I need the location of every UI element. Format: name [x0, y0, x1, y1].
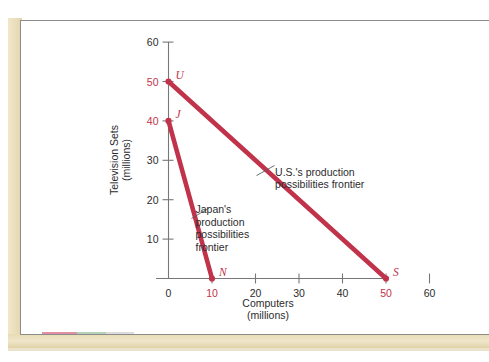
x-tick-label-0: 0: [166, 287, 172, 299]
x-axis-title: Computers: [242, 297, 293, 309]
ppf-line-1: [169, 121, 213, 279]
figure-page: 102030405060 0102030405060 USJN U.S.'s p…: [0, 0, 489, 362]
endpoint-label-N: N: [218, 266, 228, 278]
japan-annotation-line-0: Japan's: [195, 203, 231, 215]
us-annotation-line-1: possibilities frontier: [275, 178, 365, 190]
endpoint-marker-N: [209, 275, 215, 281]
x-tick-label-40: 40: [337, 287, 349, 299]
y-tick-label-10: 10: [147, 233, 159, 245]
endpoint-label-S: S: [393, 266, 399, 278]
japan-annotation: Japan'sproductionpossibilitiesfrontier: [195, 203, 249, 252]
x-tick-label-50: 50: [380, 287, 392, 299]
x-axis-subtitle: (millions): [247, 309, 289, 321]
axes: [156, 42, 388, 279]
y-axis-title: Television Sets: [108, 125, 120, 195]
x-tick-label-30: 30: [293, 287, 305, 299]
endpoint-label-J: J: [176, 108, 182, 120]
endpoint-marker-J: [165, 118, 171, 124]
us-annotation-line-0: U.S.'s production: [275, 166, 355, 178]
y-axis-subtitle: (millions): [120, 139, 132, 181]
y-tick-label-50: 50: [147, 76, 159, 88]
japan-annotation-line-1: production: [195, 216, 244, 228]
endpoint-marker-U: [165, 78, 171, 84]
production-possibilities-chart: 102030405060 0102030405060 USJN U.S.'s p…: [0, 0, 489, 362]
x-tick-label-10: 10: [206, 287, 218, 299]
y-tick-label-40: 40: [147, 115, 159, 127]
endpoint-marker-S: [383, 275, 389, 281]
us-annotation: U.S.'s productionpossibilities frontier: [275, 166, 365, 190]
y-axis-tick-labels: 102030405060: [147, 36, 159, 245]
x-axis-tick-labels: 0102030405060: [166, 287, 436, 299]
x-tick-label-60: 60: [424, 287, 436, 299]
japan-annotation-line-2: possibilities: [195, 228, 249, 240]
y-tick-label-60: 60: [147, 36, 159, 48]
endpoint-label-U: U: [176, 69, 185, 81]
y-tick-label-30: 30: [147, 154, 159, 166]
japan-annotation-line-3: frontier: [195, 241, 228, 253]
annotation-text: U.S.'s productionpossibilities frontierJ…: [195, 166, 364, 253]
y-tick-label-20: 20: [147, 194, 159, 206]
